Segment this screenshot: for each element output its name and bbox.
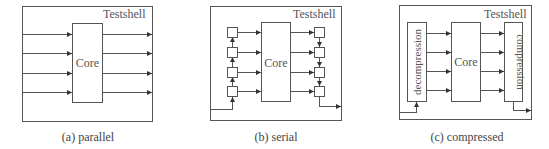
testshell-label: Testshell (293, 7, 336, 21)
scan-cell (228, 48, 238, 58)
scan-cell (228, 87, 238, 97)
caption-serial: (b) serial (255, 130, 299, 144)
scan-cell (315, 87, 325, 97)
panel-compressed: Testshell decompression Core compression… (400, 6, 532, 145)
testshell-label: Testshell (103, 7, 146, 21)
core-label: Core (76, 56, 99, 70)
testshell-figure: Testshell Core (a) parallel Testshell Co… (0, 0, 549, 149)
scan-cell (228, 28, 238, 38)
core-label: Core (264, 56, 287, 70)
scan-cell (315, 68, 325, 78)
panel-parallel: Testshell Core (a) parallel (23, 7, 153, 145)
scan-cell (228, 68, 238, 78)
caption-parallel: (a) parallel (62, 130, 115, 144)
panel-serial: Testshell Core (211, 7, 342, 145)
scan-cell (315, 28, 325, 38)
core-label: Core (454, 55, 477, 69)
scan-cell (315, 48, 325, 58)
caption-compressed: (c) compressed (431, 130, 504, 144)
compressor-label: compression (515, 34, 527, 90)
decompressor-label: decompression (411, 29, 423, 95)
testshell-label: Testshell (484, 7, 527, 21)
